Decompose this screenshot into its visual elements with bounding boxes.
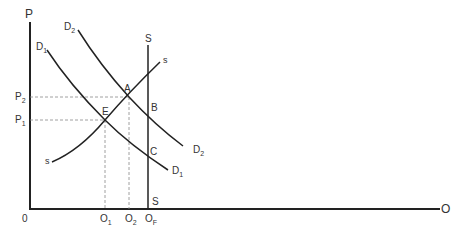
o2-label: O2 <box>125 213 137 226</box>
p1-label: P1 <box>15 114 26 127</box>
supply-demand-diagram: P O 0 P2 P1 O1 O2 OF D2 D1 D2 D1 S S s s… <box>0 0 454 235</box>
point-c-label: C <box>150 146 157 157</box>
origin-label: 0 <box>22 213 28 224</box>
x-axis-label: O <box>441 202 450 216</box>
of-label: OF <box>145 213 157 226</box>
point-e-label: E <box>102 106 109 117</box>
y-axis-label: P <box>25 7 33 21</box>
short-supply-bottom-label: s <box>45 156 50 166</box>
d1-top-label: D1 <box>36 41 47 54</box>
point-b-label: B <box>151 102 158 113</box>
fixed-supply-bottom-label: S <box>152 196 159 207</box>
point-a-label: A <box>124 83 131 94</box>
fixed-supply-top-label: S <box>145 33 152 44</box>
d2-end-label: D2 <box>193 144 204 157</box>
p2-label: P2 <box>15 91 26 104</box>
d2-top-label: D2 <box>64 21 75 34</box>
d1-end-label: D1 <box>172 165 183 178</box>
o1-label: O1 <box>100 213 112 226</box>
short-supply-top-label: s <box>163 55 168 65</box>
